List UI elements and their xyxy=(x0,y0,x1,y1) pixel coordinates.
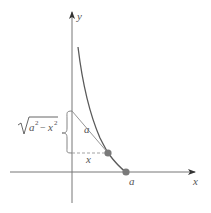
radicand-a-exponent: 2 xyxy=(35,119,39,127)
x-axis-label: x xyxy=(192,175,198,187)
curve-point xyxy=(104,149,111,156)
radicand-x-exponent: 2 xyxy=(54,119,58,127)
tangent-segment xyxy=(72,111,108,153)
radicand-x: x xyxy=(47,121,53,133)
y-axis-label: y xyxy=(76,10,82,22)
vertical-segment-label: a 2 − x 2 xyxy=(18,117,58,134)
horizontal-segment-label: x xyxy=(85,153,91,165)
tractrix-diagram: y x a x a a 2 − x 2 xyxy=(0,0,211,213)
tangent-length-label: a xyxy=(84,123,90,135)
x-intercept-label: a xyxy=(129,175,135,187)
radicand-minus: − xyxy=(40,122,46,133)
vertical-brace xyxy=(62,111,72,153)
